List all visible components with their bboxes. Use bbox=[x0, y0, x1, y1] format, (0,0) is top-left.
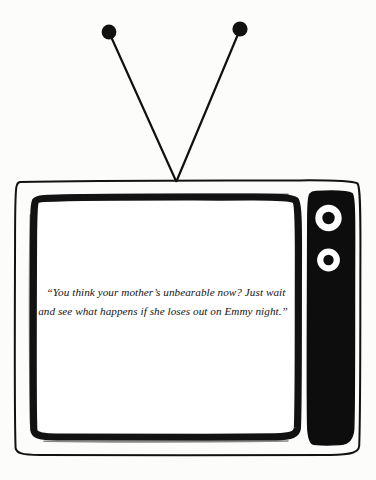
tv-line-art bbox=[0, 0, 376, 480]
cartoon-illustration: “You think your mother’s unbearable now?… bbox=[0, 0, 376, 480]
dial-lower[interactable] bbox=[317, 249, 340, 272]
bezel-rough-bottom bbox=[44, 441, 288, 442]
antenna-knob-left-icon bbox=[102, 25, 117, 40]
dial-lower-center-icon bbox=[323, 255, 333, 265]
antenna-knob-right-icon bbox=[232, 21, 247, 36]
screen-surface bbox=[40, 205, 292, 431]
dial-upper-center-icon bbox=[322, 212, 334, 224]
dial-upper[interactable] bbox=[315, 205, 341, 231]
control-panel bbox=[307, 191, 354, 445]
